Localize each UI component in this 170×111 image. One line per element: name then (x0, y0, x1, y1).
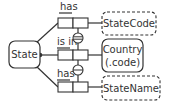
value-statename-label: StateName (103, 83, 159, 94)
fact-reading: has (60, 1, 78, 12)
entity-state[interactable]: State (9, 41, 40, 68)
fact-reading: has (57, 68, 75, 79)
role-box[interactable] (73, 18, 88, 28)
value-statecode-label: StateCode (103, 18, 155, 29)
fact-has-name[interactable]: has (57, 68, 88, 92)
entity-country-refmode: (.code) (105, 57, 140, 68)
fact-is-in[interactable]: is in (57, 36, 88, 60)
role-box[interactable] (58, 18, 73, 28)
orm-diagram: State has is in has StateCode (0, 0, 170, 111)
role-box[interactable] (58, 82, 73, 92)
connector-state-has-name (36, 66, 58, 87)
role-box[interactable] (73, 82, 88, 92)
value-statename[interactable]: StateName (102, 76, 160, 100)
entity-state-label: State (11, 49, 37, 60)
preferred-identifier-constraint-icon[interactable] (73, 33, 83, 43)
connector-state-has-code (36, 23, 58, 43)
role-box[interactable] (73, 50, 88, 60)
role-box[interactable] (58, 50, 73, 60)
entity-country[interactable]: Country (.code) (102, 39, 143, 72)
value-statecode[interactable]: StateCode (102, 12, 156, 35)
entity-country-label: Country (103, 44, 143, 55)
external-uniqueness-constraint-icon[interactable] (73, 65, 83, 75)
fact-has-code[interactable]: has (58, 1, 88, 28)
